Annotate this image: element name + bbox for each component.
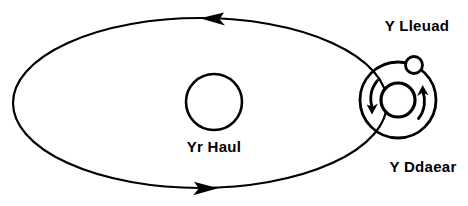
moon-circle	[406, 57, 423, 74]
sun-circle	[186, 74, 242, 130]
earth-label: Y Ddaear	[389, 158, 456, 175]
diagram-canvas: Y Lleuad Yr Haul Y Ddaear	[0, 0, 468, 206]
sun-label: Yr Haul	[187, 138, 242, 155]
earth-circle	[381, 83, 415, 117]
earth-rotation-arrow-left-icon	[367, 81, 378, 115]
earth-rotation-arrow-right-icon	[417, 85, 428, 119]
orbit-diagram: Y Lleuad Yr Haul Y Ddaear	[0, 0, 468, 206]
moon-label: Y Lleuad	[385, 17, 450, 34]
